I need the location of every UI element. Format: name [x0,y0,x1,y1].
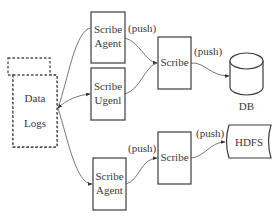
scribe-agent-bottom-label-line1: Scribe [95,170,123,182]
scribe-lower-node: Scribe [158,132,191,184]
data-logs-label-line1: Data [25,92,46,104]
edge-label-lower-push: (push) [196,127,224,140]
edge-label-middle-push: (push) [194,45,222,58]
db-cylinder-top [230,53,263,69]
edge-agent-top-to-scribe [125,38,157,63]
scribe-agent-top-node: Scribe Agent [91,12,125,63]
data-logs-front-page [13,75,57,147]
edge-scribe-to-hdfs [191,142,225,158]
data-logs-node: Data Logs [8,58,57,147]
edge-scribe-to-db [191,63,229,76]
scribe-agent-top-label-line1: Scribe [94,23,122,35]
architecture-diagram: Data Logs Scribe Agent Scribe Ugenl (pus… [0,0,277,221]
scribe-ugenl-label-line1: Scribe [94,80,122,92]
scribe-agent-top-label-line2: Agent [95,37,122,49]
edge-logs-to-agent-top [58,28,91,108]
scribe-agent-bottom-node: Scribe Agent [93,158,126,210]
data-logs-label-line2: Logs [24,117,46,129]
scribe-agent-bottom-label-line2: Agent [96,184,123,196]
hdfs-label: HDFS [235,136,263,148]
scribe-middle-label: Scribe [160,56,188,68]
edge-ugenl-to-scribe [125,63,157,94]
edge-agent-bottom-to-scribe [126,158,157,184]
db-node: DB [230,53,263,112]
edge-label-agent-bottom-push: (push) [128,142,156,155]
scribe-ugenl-node: Scribe Ugenl [91,68,125,120]
db-label: DB [239,100,254,112]
edge-logs-to-ugenl [58,94,90,108]
scribe-ugenl-label-line2: Ugenl [95,94,122,106]
hdfs-node: HDFS [227,125,272,158]
edge-label-agent-top-push: (push) [128,22,156,35]
scribe-lower-label: Scribe [160,151,188,163]
edge-logs-to-agent-bottom [58,108,92,184]
scribe-middle-node: Scribe [158,37,191,89]
